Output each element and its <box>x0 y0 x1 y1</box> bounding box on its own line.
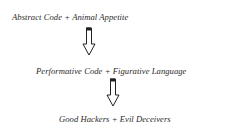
node-good-hackers: Good Hackers + Evil Deceivers <box>59 114 171 124</box>
down-arrow-icon <box>82 27 96 56</box>
node-performative-code: Performative Code + Figurative Language <box>36 66 186 76</box>
node-abstract-code: Abstract Code + Animal Appetite <box>12 12 128 22</box>
down-arrow-icon <box>106 78 120 107</box>
